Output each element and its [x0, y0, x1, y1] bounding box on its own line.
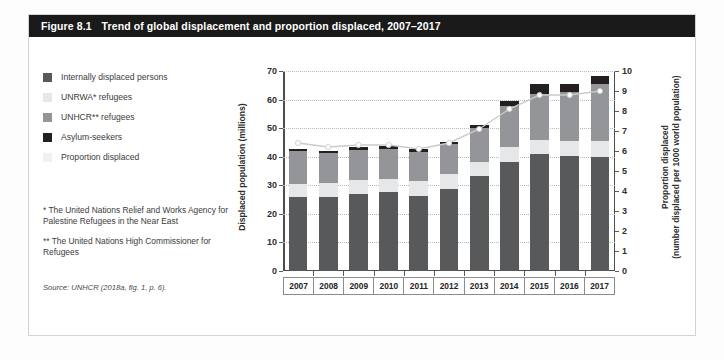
y-axis-right-tick-label: 4 [622, 186, 627, 196]
y-axis-left-tick-label: 40 [267, 152, 277, 162]
bar-2008[interactable] [319, 71, 338, 271]
y-axis-left-tickmark [279, 71, 283, 72]
bar-segment [319, 151, 338, 153]
x-axis-label-2011[interactable]: 2011 [404, 277, 434, 295]
x-axis-label-2014[interactable]: 2014 [495, 277, 525, 295]
figure-number: Figure 8.1 [29, 20, 92, 32]
bar-segment [530, 140, 549, 155]
x-axis-tickmark [313, 271, 314, 276]
y-axis-left-tick-label: 10 [267, 237, 277, 247]
bar-2013[interactable] [470, 71, 489, 271]
legend-item-unrwa: UNRWA* refugees [43, 93, 233, 102]
bar-segment [349, 180, 368, 194]
plot-region: 010203040506070 012345678910 [283, 71, 615, 271]
x-axis-tickmark [374, 271, 375, 276]
legend-item-proportion: Proportion displaced [43, 153, 233, 162]
x-axis-tickmark [555, 271, 556, 276]
x-axis-tickmark [343, 271, 344, 276]
bar-segment [289, 197, 308, 271]
y-axis-left-tickmark [279, 157, 283, 158]
chart-area: Displaced population (millions) Proporti… [235, 59, 687, 327]
x-axis-tickmark [494, 271, 495, 276]
bar-segment [409, 152, 428, 182]
bar-segment [319, 183, 338, 196]
y-axis-left-tickmark [279, 214, 283, 215]
y-axis-right-title-line1: Proportion displaced [660, 125, 670, 209]
y-axis-right-tick-label: 0 [622, 266, 627, 276]
x-axis-label-2008[interactable]: 2008 [314, 277, 344, 295]
y-axis-right-tick-label: 1 [622, 246, 627, 256]
bar-segment [440, 174, 459, 188]
y-axis-right-tick-label: 10 [622, 66, 632, 76]
x-axis-label-2012[interactable]: 2012 [434, 277, 464, 295]
bar-segment [530, 94, 549, 140]
figure-page: Figure 8.1 Trend of global displacement … [0, 0, 724, 360]
legend-swatch-proportion [43, 153, 52, 162]
figure-body: Internally displaced persons UNRWA* refu… [29, 37, 695, 336]
bar-2012[interactable] [440, 71, 459, 271]
bar-2010[interactable] [379, 71, 398, 271]
bar-2009[interactable] [349, 71, 368, 271]
figure-title: Trend of global displacement and proport… [92, 20, 441, 32]
y-axis-right-tick-label: 8 [622, 106, 627, 116]
bar-segment [379, 146, 398, 148]
y-axis-left-title: Displaced population (millions) [237, 67, 251, 267]
legend-label-unrwa: UNRWA* refugees [61, 93, 132, 102]
y-axis-right-tick-label: 5 [622, 166, 627, 176]
bar-2016[interactable] [560, 71, 579, 271]
y-axis-right-tick-label: 2 [622, 226, 627, 236]
y-axis-right-tickmark [615, 151, 619, 152]
bar-segment [560, 84, 579, 92]
bar-segment [470, 125, 489, 128]
bars-layer [283, 71, 615, 271]
bar-segment [470, 128, 489, 161]
bar-segment [591, 141, 610, 156]
y-axis-right-tickmark [615, 211, 619, 212]
legend-swatch-unrwa [43, 93, 52, 102]
bar-2015[interactable] [530, 71, 549, 271]
bar-segment [349, 194, 368, 271]
x-axis-tickmark [464, 271, 465, 276]
legend-swatch-asylum [43, 133, 52, 142]
bar-segment [591, 157, 610, 271]
bar-2017[interactable] [591, 71, 610, 271]
y-axis-right-tickmark [615, 131, 619, 132]
x-axis-tickmark [434, 271, 435, 276]
y-axis-right-title-line2: (number displaced per 1000 world populat… [671, 75, 681, 258]
bar-2011[interactable] [409, 71, 428, 271]
bar-segment [409, 196, 428, 271]
footnote-unrwa: * The United Nations Relief and Works Ag… [43, 205, 229, 227]
legend-label-asylum: Asylum-seekers [61, 133, 122, 142]
x-axis-label-2009[interactable]: 2009 [344, 277, 374, 295]
bar-segment [379, 149, 398, 179]
bar-segment [560, 92, 579, 141]
figure-footnotes: * The United Nations Relief and Works Ag… [43, 205, 229, 267]
x-axis-tickmark [585, 271, 586, 276]
x-axis-tickmark [524, 271, 525, 276]
y-axis-left-tick-label: 60 [267, 95, 277, 105]
y-axis-right-tick-label: 3 [622, 206, 627, 216]
bar-segment [500, 106, 519, 147]
bar-segment [349, 147, 368, 150]
y-axis-left-tick-label: 0 [272, 266, 277, 276]
x-axis-label-2016[interactable]: 2016 [555, 277, 585, 295]
x-axis-label-2015[interactable]: 2015 [525, 277, 555, 295]
bar-segment [289, 184, 308, 197]
y-axis-left-tick-label: 20 [267, 209, 277, 219]
y-axis-right-tick-label: 6 [622, 146, 627, 156]
bar-segment [500, 162, 519, 271]
x-axis-label-2010[interactable]: 2010 [374, 277, 404, 295]
x-axis-label-2013[interactable]: 2013 [465, 277, 495, 295]
y-axis-left-tickmark [279, 128, 283, 129]
y-axis-left-tick-label: 30 [267, 180, 277, 190]
bar-segment [591, 84, 610, 141]
y-axis-left-tick-label: 50 [267, 123, 277, 133]
y-axis-right-tickmark [615, 111, 619, 112]
x-axis-label-2007[interactable]: 2007 [283, 277, 314, 295]
x-axis-label-2017[interactable]: 2017 [585, 277, 615, 295]
bar-2007[interactable] [289, 71, 308, 271]
bar-2014[interactable] [500, 71, 519, 271]
figure-title-bar: Figure 8.1 Trend of global displacement … [29, 15, 695, 37]
y-axis-right-tickmark [615, 231, 619, 232]
figure-container: Figure 8.1 Trend of global displacement … [28, 14, 696, 336]
